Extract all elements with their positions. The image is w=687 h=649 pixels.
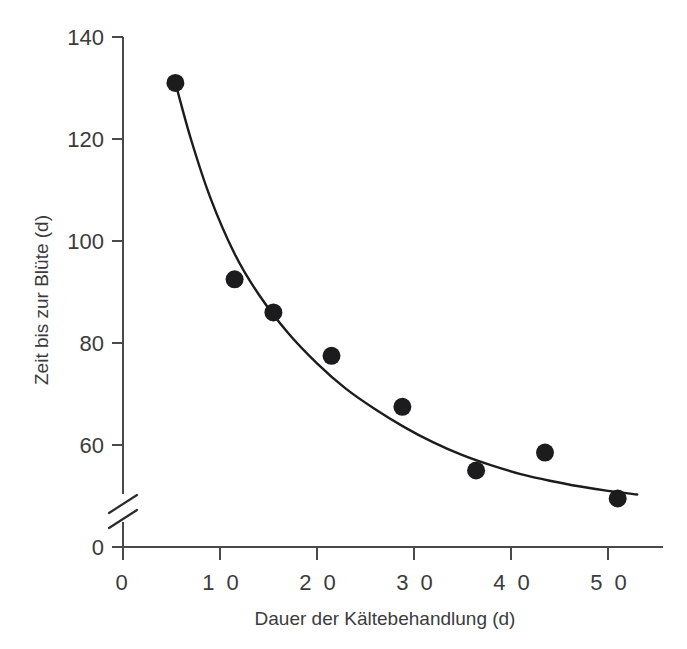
x-axis-title: Dauer der Kältebehandlung (d) bbox=[255, 608, 516, 629]
y-tick-label-80: 80 bbox=[80, 331, 104, 356]
x-tick-label-10: 1 0 bbox=[202, 570, 242, 595]
scatter-plot-canvas: 140 120 100 80 60 0 0 1 0 2 0 3 0 4 0 5 … bbox=[0, 0, 687, 649]
y-axis-title: Zeit bis zur Blüte (d) bbox=[31, 215, 52, 385]
x-tick-label-30: 3 0 bbox=[396, 570, 436, 595]
data-point bbox=[166, 74, 184, 92]
x-tick-label-50: 5 0 bbox=[590, 570, 630, 595]
data-point bbox=[467, 462, 485, 480]
x-tick-label-40: 4 0 bbox=[493, 570, 533, 595]
x-tick-label-20: 2 0 bbox=[299, 570, 339, 595]
y-tick-label-120: 120 bbox=[67, 127, 104, 152]
data-point bbox=[393, 398, 411, 416]
y-axis-break-slash-upper bbox=[109, 495, 137, 513]
chart-figure: 140 120 100 80 60 0 0 1 0 2 0 3 0 4 0 5 … bbox=[0, 0, 687, 649]
y-tick-label-zero: 0 bbox=[92, 535, 104, 560]
data-point bbox=[609, 490, 627, 508]
y-tick-label-100: 100 bbox=[67, 229, 104, 254]
data-point bbox=[264, 303, 282, 321]
trend-curve bbox=[175, 83, 637, 495]
data-point bbox=[226, 270, 244, 288]
x-tick-label-0: 0 bbox=[115, 570, 130, 595]
data-point bbox=[323, 347, 341, 365]
y-tick-label-140: 140 bbox=[67, 25, 104, 50]
data-point bbox=[536, 444, 554, 462]
y-tick-label-60: 60 bbox=[80, 433, 104, 458]
